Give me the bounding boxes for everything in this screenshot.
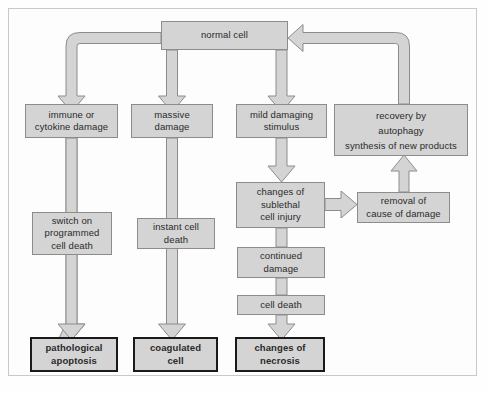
- node-immune-cytokine-damage[interactable]: immune orcytokine damage: [25, 104, 118, 138]
- node-switch-on-programmed-cell-death[interactable]: switch onprogrammedcell death: [32, 212, 112, 255]
- node-continued-damage[interactable]: continueddamage: [237, 247, 325, 278]
- node-changes-of-necrosis-label: changes ofnecrosis: [251, 342, 308, 367]
- node-removal-cause-of-damage-label: removal ofcause of damage: [363, 195, 443, 220]
- node-switch-on-programmed-cell-death-label: switch onprogrammedcell death: [42, 215, 103, 253]
- arrow-removal-to-recovery: [391, 155, 417, 192]
- node-cell-death-label: cell death: [257, 299, 305, 312]
- node-continued-damage-label: continueddamage: [257, 250, 305, 275]
- arrow-normalcell-to-mild: [268, 50, 295, 112]
- node-removal-cause-of-damage[interactable]: removal ofcause of damage: [357, 192, 450, 223]
- node-immune-cytokine-damage-label: immune orcytokine damage: [32, 109, 111, 134]
- node-pathological-apoptosis-label: pathologicalapoptosis: [42, 342, 105, 367]
- node-cell-death[interactable]: cell death: [237, 295, 325, 315]
- node-instant-cell-death-label: instant celldeath: [150, 221, 202, 246]
- node-changes-of-necrosis[interactable]: changes ofnecrosis: [235, 337, 325, 372]
- node-massive-damage[interactable]: massivedamage: [131, 104, 213, 138]
- diagram-canvas: normal cell immune orcytokine damage mas…: [0, 0, 489, 394]
- node-normal-cell[interactable]: normal cell: [161, 21, 288, 50]
- node-mild-damaging-stimulus[interactable]: mild damagingstimulus: [236, 104, 327, 138]
- node-coagulated-cell-label: coagulatedcell: [147, 342, 204, 367]
- node-coagulated-cell[interactable]: coagulatedcell: [133, 337, 218, 372]
- node-normal-cell-label: normal cell: [198, 29, 251, 42]
- node-pathological-apoptosis[interactable]: pathologicalapoptosis: [30, 337, 118, 372]
- node-recovery-autophagy[interactable]: recovery byautophagysynthesis of new pro…: [334, 104, 468, 156]
- arrow-recovery-to-normalcell: [288, 25, 410, 105]
- arrow-continued-to-celldeath: [276, 278, 287, 295]
- node-recovery-autophagy-label: recovery byautophagysynthesis of new pro…: [342, 108, 460, 153]
- arrow-normalcell-to-massive: [159, 50, 186, 112]
- node-sublethal-cell-injury[interactable]: changes ofsublethalcell injury: [236, 182, 325, 228]
- arrow-sublethal-to-continued: [276, 228, 287, 247]
- node-mild-damaging-stimulus-label: mild damagingstimulus: [247, 109, 316, 134]
- node-massive-damage-label: massivedamage: [151, 109, 193, 134]
- node-sublethal-cell-injury-label: changes ofsublethalcell injury: [254, 186, 307, 224]
- arrow-sublethal-to-removal: [325, 191, 357, 218]
- arrow-mild-to-sublethal: [268, 138, 295, 182]
- node-instant-cell-death[interactable]: instant celldeath: [137, 218, 215, 249]
- arrow-normalcell-to-immune: [58, 33, 161, 113]
